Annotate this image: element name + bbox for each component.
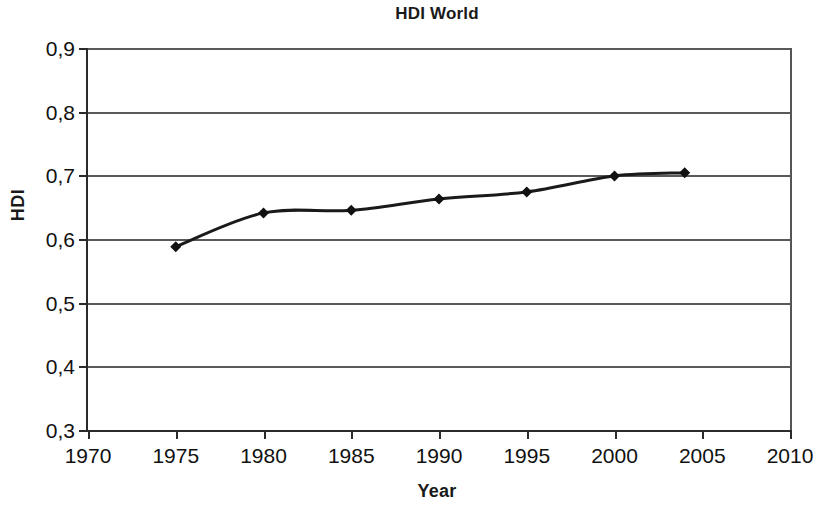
x-axis-tick	[264, 430, 266, 439]
data-point-marker-1995	[521, 186, 532, 197]
series-line-hdi-world	[176, 173, 685, 247]
y-axis-tick-label: 0,4	[46, 356, 75, 377]
y-axis-tick	[79, 303, 88, 305]
x-axis-tick	[439, 430, 441, 439]
chart-container: HDI World HDI 0,30,40,50,60,70,80,9 1970…	[0, 0, 813, 508]
y-axis-title: HDI	[8, 189, 29, 222]
data-series-layer	[88, 48, 790, 430]
x-axis-tick	[88, 430, 90, 439]
x-axis-tick	[790, 430, 792, 439]
y-axis-tick-label: 0,3	[46, 420, 75, 441]
data-point-marker-1990	[434, 193, 445, 204]
chart-title: HDI World	[86, 4, 788, 24]
x-axis-tick-label: 2000	[591, 445, 638, 466]
data-point-marker-1985	[346, 205, 357, 216]
x-axis-tick	[176, 430, 178, 439]
y-axis-tick	[79, 48, 88, 50]
x-axis-tick	[527, 430, 529, 439]
x-axis-tick-label: 2010	[767, 445, 813, 466]
data-point-marker-2004	[679, 167, 690, 178]
y-axis-tick	[79, 239, 88, 241]
data-point-marker-1980	[258, 207, 269, 218]
plot-area: 0,30,40,50,60,70,80,9 197019751980198519…	[86, 48, 792, 430]
x-axis-tick	[702, 430, 704, 439]
data-point-marker-2000	[609, 170, 620, 181]
y-axis-tick-label: 0,6	[46, 229, 75, 250]
y-axis-tick-label: 0,5	[46, 292, 75, 313]
y-axis-tick	[79, 366, 88, 368]
x-axis-tick-label: 1975	[152, 445, 199, 466]
data-point-marker-1975	[170, 241, 181, 252]
x-axis-tick-label: 1995	[503, 445, 550, 466]
y-axis-tick-label: 0,9	[46, 38, 75, 59]
x-axis-tick	[615, 430, 617, 439]
x-axis-title: Year	[86, 481, 788, 502]
x-axis-tick	[351, 430, 353, 439]
y-axis-tick-label: 0,7	[46, 165, 75, 186]
y-axis-tick	[79, 112, 88, 114]
y-axis-tick	[79, 175, 88, 177]
series-markers-group	[170, 167, 690, 252]
x-axis-tick-label: 1985	[328, 445, 375, 466]
y-axis-tick-label: 0,8	[46, 101, 75, 122]
x-axis-tick-label: 2005	[679, 445, 726, 466]
x-axis-tick-label: 1980	[240, 445, 287, 466]
x-axis-tick-label: 1970	[65, 445, 112, 466]
y-axis-tick	[79, 430, 88, 432]
x-axis-tick-label: 1990	[416, 445, 463, 466]
